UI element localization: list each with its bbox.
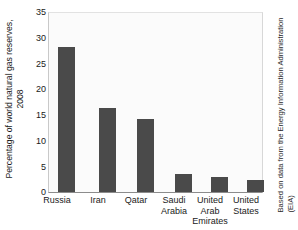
- y-axis-tick-label: 25: [6, 60, 46, 69]
- bar-united-states[interactable]: [247, 180, 264, 192]
- y-axis-tick-label: 15: [6, 111, 46, 120]
- bar-iran[interactable]: [99, 108, 116, 192]
- bar-russia[interactable]: [58, 47, 75, 192]
- bar-united-arab-emirates[interactable]: [211, 177, 228, 192]
- x-axis-tick-label-united-states: United States: [219, 195, 273, 216]
- source-annotation-line-2: (EIA): [285, 17, 295, 212]
- y-axis-title-line-1: Percentage of world natural gas reserves…: [4, 19, 15, 178]
- source-annotation: Based on data from the Energy Informatio…: [272, 0, 298, 230]
- plot-area: [48, 12, 263, 193]
- x-tick-line: States: [219, 206, 273, 217]
- y-axis-tick-label: 35: [6, 8, 46, 17]
- y-axis-tick-label: 5: [6, 163, 46, 172]
- y-axis-tick-label: 20: [6, 85, 46, 94]
- source-annotation-line-1: Based on data from the Energy Informatio…: [276, 17, 286, 212]
- x-tick-line: United: [219, 195, 273, 206]
- y-axis-tick-label: 10: [6, 137, 46, 146]
- bar-qatar[interactable]: [137, 119, 154, 192]
- bar-saudi-arabia[interactable]: [175, 174, 192, 192]
- bar-chart-figure: Percentage of world natural gas reserves…: [0, 0, 298, 230]
- y-axis-tick-label: 30: [6, 34, 46, 43]
- x-tick-line: Emirates: [183, 216, 237, 227]
- y-axis-title-line-2: 2008: [14, 19, 25, 178]
